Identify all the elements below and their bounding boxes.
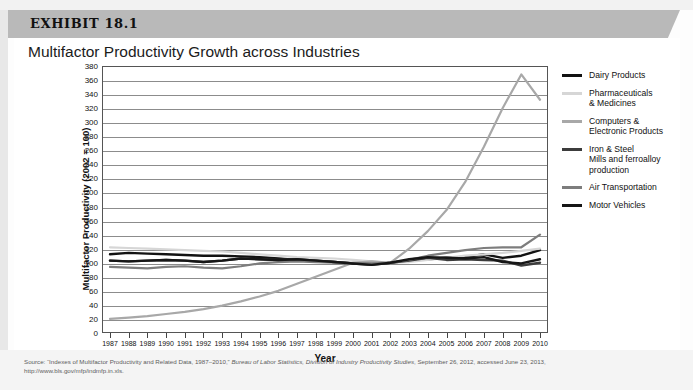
x-tick-label: 1994 xyxy=(233,340,249,347)
x-tick-label: 2010 xyxy=(532,340,548,347)
y-tick-label: 140 xyxy=(72,230,98,239)
y-tick-label: 160 xyxy=(72,216,98,225)
legend-swatch-icon xyxy=(562,92,582,95)
x-tick-label: 1999 xyxy=(327,340,343,347)
legend-item[interactable]: Dairy Products xyxy=(562,70,690,81)
legend-label: Dairy Products xyxy=(589,70,645,81)
x-tick-mark xyxy=(334,333,335,338)
legend-item[interactable]: Computers & Electronic Products xyxy=(562,116,690,137)
exhibit-banner: EXHIBIT 18.1 xyxy=(0,10,693,38)
chart-card: Multifactor Productivity Growth across I… xyxy=(14,38,680,350)
legend-label: Pharmaceuticals & Medicines xyxy=(589,88,653,109)
x-tick-label: 1991 xyxy=(177,340,193,347)
x-tick-label: 1990 xyxy=(158,340,174,347)
y-tick-label: 220 xyxy=(72,174,98,183)
x-tick-label: 1992 xyxy=(196,340,212,347)
x-tick-label: 1996 xyxy=(270,340,286,347)
x-tick-mark xyxy=(316,333,317,338)
x-tick-mark xyxy=(353,333,354,338)
legend-label: Iron & Steel Mills and ferroalloy produc… xyxy=(589,144,661,176)
x-tick-label: 1998 xyxy=(308,340,324,347)
exhibit-label: EXHIBIT 18.1 xyxy=(30,16,139,31)
legend-label: Computers & Electronic Products xyxy=(589,116,663,137)
y-tick-label: 360 xyxy=(72,76,98,85)
x-tick-label: 2000 xyxy=(345,340,361,347)
source-prefix: Source: “Indexes of Multifactor Producti… xyxy=(24,358,231,365)
y-tick-label: 380 xyxy=(72,62,98,71)
y-axis-tick-labels: 0204060801001201401601802002202402602803… xyxy=(72,66,98,333)
y-tick-label: 340 xyxy=(72,90,98,99)
x-tick-label: 2006 xyxy=(457,340,473,347)
y-tick-label: 240 xyxy=(72,160,98,169)
legend-item[interactable]: Pharmaceuticals & Medicines xyxy=(562,88,690,109)
x-tick-mark xyxy=(372,333,373,338)
x-tick-mark xyxy=(147,333,148,338)
x-tick-mark xyxy=(390,333,391,338)
chart-series-lines xyxy=(102,66,548,333)
legend-swatch-icon xyxy=(562,204,582,207)
x-tick-label: 2009 xyxy=(514,340,530,347)
x-tick-mark xyxy=(297,333,298,338)
x-tick-mark xyxy=(428,333,429,338)
y-tick-label: 0 xyxy=(72,329,98,338)
series-line xyxy=(110,235,540,269)
legend-swatch-icon xyxy=(562,148,582,151)
legend-swatch-icon xyxy=(562,186,582,189)
x-tick-label: 2008 xyxy=(495,340,511,347)
legend-swatch-icon xyxy=(562,74,582,77)
chart-legend: Dairy ProductsPharmaceuticals & Medicine… xyxy=(562,70,690,217)
x-tick-label: 2002 xyxy=(383,340,399,347)
x-tick-label: 1993 xyxy=(214,340,230,347)
y-tick-label: 200 xyxy=(72,188,98,197)
x-tick-mark xyxy=(465,333,466,338)
x-tick-mark xyxy=(540,333,541,338)
x-tick-mark xyxy=(129,333,130,338)
y-tick-label: 20 xyxy=(72,314,98,323)
legend-item[interactable]: Motor Vehicles xyxy=(562,200,690,211)
x-tick-label: 1989 xyxy=(140,340,156,347)
x-tick-mark xyxy=(521,333,522,338)
x-tick-mark xyxy=(409,333,410,338)
plot-area: Multifactor Productivity (2002 = 100) 02… xyxy=(72,66,548,338)
legend-item[interactable]: Iron & Steel Mills and ferroalloy produc… xyxy=(562,144,690,176)
x-tick-mark xyxy=(503,333,504,338)
x-tick-label: 1997 xyxy=(289,340,305,347)
legend-item[interactable]: Air Transportation xyxy=(562,182,690,193)
y-tick-label: 260 xyxy=(72,146,98,155)
legend-swatch-icon xyxy=(562,120,582,123)
y-tick-label: 100 xyxy=(72,258,98,267)
x-tick-label: 2001 xyxy=(364,340,380,347)
x-tick-mark xyxy=(278,333,279,338)
x-tick-label: 1995 xyxy=(252,340,268,347)
x-tick-mark xyxy=(260,333,261,338)
x-tick-mark xyxy=(110,333,111,338)
x-tick-mark xyxy=(447,333,448,338)
y-tick-label: 180 xyxy=(72,202,98,211)
y-tick-label: 60 xyxy=(72,286,98,295)
x-tick-label: 1987 xyxy=(102,340,118,347)
x-tick-mark xyxy=(241,333,242,338)
y-tick-label: 40 xyxy=(72,300,98,309)
y-tick-label: 280 xyxy=(72,132,98,141)
chart-title: Multifactor Productivity Growth across I… xyxy=(28,43,360,61)
page-shade-top xyxy=(0,0,693,10)
y-tick-label: 120 xyxy=(72,244,98,253)
x-tick-mark xyxy=(166,333,167,338)
x-tick-label: 2004 xyxy=(420,340,436,347)
legend-label: Motor Vehicles xyxy=(589,200,645,211)
source-note: Source: “Indexes of Multifactor Producti… xyxy=(24,357,664,375)
series-line xyxy=(110,74,540,319)
x-tick-label: 2003 xyxy=(401,340,417,347)
legend-label: Air Transportation xyxy=(589,182,657,193)
source-suffix: , September 26, 2012, accessed June 23, … xyxy=(414,358,546,365)
exhibit-page: EXHIBIT 18.1 Multifactor Productivity Gr… xyxy=(0,0,693,390)
x-tick-mark xyxy=(222,333,223,338)
x-tick-label: 2007 xyxy=(476,340,492,347)
source-italic: Bureau of Labor Statistics, Division of … xyxy=(231,358,414,365)
x-tick-label: 2005 xyxy=(439,340,455,347)
y-tick-label: 300 xyxy=(72,118,98,127)
page-shade-left xyxy=(0,10,8,350)
y-tick-label: 80 xyxy=(72,272,98,281)
source-url: http://www.bls.gov/mfp/indmfp.in.xls. xyxy=(24,367,124,374)
y-tick-label: 320 xyxy=(72,104,98,113)
